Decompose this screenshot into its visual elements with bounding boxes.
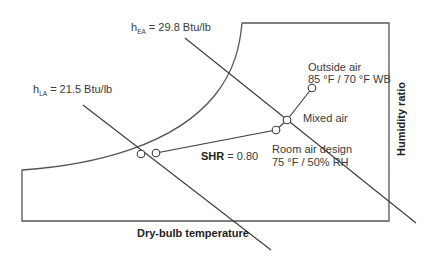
room-air-title: Room air design [272, 143, 352, 156]
x-axis-label: Dry-bulb temperature [137, 227, 249, 240]
mixed-air-label: Mixed air [303, 112, 348, 125]
supply-air-point [152, 149, 160, 157]
enthalpy-ea-label: hEA = 29.8 Btu/lb [131, 21, 211, 38]
room-air-condition: 75 °F / 50% RH [272, 156, 349, 169]
shr-label: SHR = 0.80 [201, 150, 258, 163]
leaving-air-point [137, 150, 145, 158]
outside-air-condition: 85 °F / 70 °F WB [308, 73, 391, 86]
enthalpy-la-label: hLA = 21.5 Btu/lb [33, 83, 112, 100]
mixed-air-point [283, 116, 291, 124]
y-axis-label: Humidity ratio [395, 82, 407, 156]
room-air-point [272, 126, 280, 134]
psychrometric-chart [0, 0, 433, 262]
enthalpy-line-ea [185, 38, 416, 223]
